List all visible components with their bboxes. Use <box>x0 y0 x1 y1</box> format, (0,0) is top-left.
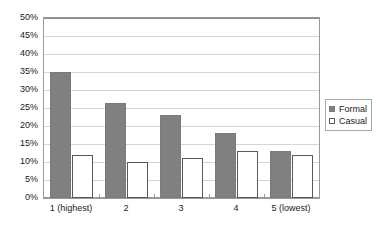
legend-label: Formal <box>339 104 367 114</box>
gridline <box>44 54 319 55</box>
x-axis-tick <box>209 194 210 198</box>
x-axis: 1 (highest)2345 (lowest) <box>43 203 320 219</box>
legend-label: Casual <box>339 116 367 126</box>
x-axis-tick <box>99 194 100 198</box>
y-tick-label: 0% <box>0 193 38 202</box>
legend-swatch-icon <box>329 106 335 112</box>
y-tick-label: 45% <box>0 31 38 40</box>
y-tick-label: 40% <box>0 49 38 58</box>
bar-formal-2 <box>105 103 126 198</box>
gridline <box>44 108 319 109</box>
y-tick-label: 25% <box>0 103 38 112</box>
gridline <box>44 18 319 19</box>
bar-chart: 0%5%10%15%20%25%30%35%40%45%50% 1 (highe… <box>0 0 386 228</box>
gridline <box>44 90 319 91</box>
x-tick-label: 2 <box>123 203 128 214</box>
x-tick-label: 4 <box>233 203 238 214</box>
y-axis: 0%5%10%15%20%25%30%35%40%45%50% <box>0 17 38 199</box>
bar-formal-3 <box>160 115 181 198</box>
gridline <box>44 36 319 37</box>
y-tick-label: 5% <box>0 175 38 184</box>
bar-formal-1 <box>50 72 71 198</box>
legend-item-casual[interactable]: Casual <box>329 115 367 127</box>
x-axis-tick <box>264 194 265 198</box>
y-tick-label: 35% <box>0 67 38 76</box>
gridline <box>44 144 319 145</box>
bar-casual-5 <box>292 155 313 198</box>
y-tick-label: 50% <box>0 13 38 22</box>
gridline <box>44 72 319 73</box>
bar-casual-2 <box>127 162 148 198</box>
x-axis-tick <box>154 194 155 198</box>
bar-formal-5 <box>270 151 291 198</box>
bar-casual-3 <box>182 158 203 198</box>
y-tick-label: 15% <box>0 139 38 148</box>
y-tick-label: 30% <box>0 85 38 94</box>
gridline <box>44 126 319 127</box>
y-tick-label: 20% <box>0 121 38 130</box>
legend-swatch-icon <box>329 118 335 124</box>
bar-casual-1 <box>72 155 93 198</box>
x-tick-label: 5 (lowest) <box>271 203 310 214</box>
bar-casual-4 <box>237 151 258 198</box>
bar-formal-4 <box>215 133 236 198</box>
plot-area <box>43 17 320 199</box>
x-tick-label: 3 <box>178 203 183 214</box>
legend-item-formal[interactable]: Formal <box>329 103 367 115</box>
x-tick-label: 1 (highest) <box>50 203 93 214</box>
y-tick-label: 10% <box>0 157 38 166</box>
chart-legend: FormalCasual <box>325 99 372 131</box>
